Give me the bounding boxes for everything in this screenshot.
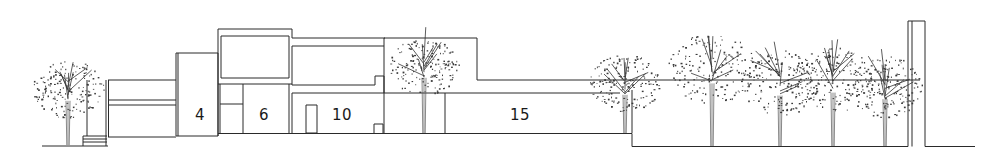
room-label-10: 10 [332,106,352,124]
tree-icon [34,61,105,145]
trees [34,27,923,146]
ground-step-down [632,134,908,147]
courtyard-15-wall [384,38,920,133]
building-room-6 [218,29,292,136]
door-outline [306,105,317,133]
tree-icon [590,56,660,133]
building-outlines [42,21,975,147]
covered-walkway [106,80,176,146]
tree-icon [669,36,757,146]
tree-icon [741,42,819,146]
tree-icon [390,27,460,133]
room-label-4: 4 [195,106,205,124]
room-label-6: 6 [259,106,269,124]
tree-icon [795,39,873,146]
room-label-15: 15 [510,106,530,124]
architectural-section-drawing: 4 6 10 15 [0,0,1007,158]
section-svg [0,0,1007,158]
